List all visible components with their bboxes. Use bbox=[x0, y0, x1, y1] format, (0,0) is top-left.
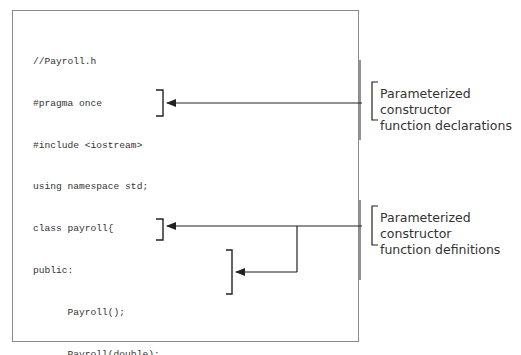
declarations-code-bracket bbox=[156, 90, 163, 116]
definitions-arrow bbox=[166, 222, 362, 276]
declarations-label-line2: function declarations bbox=[380, 118, 521, 134]
definitions-label-line2: function definitions bbox=[380, 242, 521, 258]
callout-lines bbox=[0, 0, 521, 355]
declarations-label-bracket bbox=[360, 60, 378, 140]
definitions-label: Parameterized constructor function defin… bbox=[380, 210, 521, 258]
declarations-label: Parameterized constructor function decla… bbox=[380, 86, 521, 134]
declarations-label-line1: Parameterized constructor bbox=[380, 86, 521, 118]
definition1-code-bracket bbox=[156, 219, 163, 240]
definition2-code-bracket bbox=[226, 250, 232, 294]
definitions-label-bracket bbox=[360, 200, 378, 280]
definitions-label-line1: Parameterized constructor bbox=[380, 210, 521, 242]
declarations-arrow bbox=[166, 99, 362, 107]
